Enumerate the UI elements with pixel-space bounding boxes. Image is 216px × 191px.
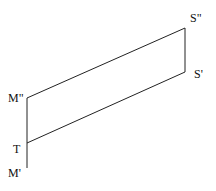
label-s-prime: S' — [194, 67, 203, 81]
diagram-canvas: S" S' M" T M' — [0, 0, 216, 191]
label-s-double-prime: S" — [190, 11, 202, 25]
edge-s1-t — [27, 72, 185, 143]
label-m-double-prime: M" — [8, 91, 24, 105]
label-t: T — [13, 142, 21, 156]
edge-m2-s2 — [27, 28, 185, 98]
label-m-prime: M' — [8, 166, 21, 180]
